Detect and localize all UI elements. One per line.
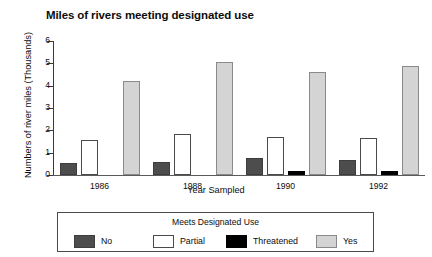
- bar: [216, 62, 233, 175]
- bar: [267, 137, 284, 175]
- y-axis-tick-label: 0: [34, 169, 50, 180]
- bar: [153, 162, 170, 175]
- plot-area: 0123456 1986198819901992: [53, 41, 425, 175]
- bar-chart-figure: Miles of rivers meeting designated use N…: [0, 0, 432, 257]
- legend-swatch-icon: [74, 235, 95, 248]
- y-axis-title: Numbers of river miles (Thousands): [23, 15, 33, 195]
- chart-title: Miles of rivers meeting designated use: [46, 9, 254, 21]
- bar: [123, 81, 140, 175]
- x-axis-line: [53, 175, 425, 176]
- bar: [246, 158, 263, 175]
- bar-group: [146, 41, 239, 175]
- legend-item-yes[interactable]: Yes: [316, 233, 357, 249]
- bar: [288, 171, 305, 175]
- legend-swatch-icon: [153, 235, 174, 248]
- y-axis-tick-label: 5: [34, 57, 50, 68]
- bar-group: [239, 41, 332, 175]
- bar: [309, 72, 326, 175]
- bar: [81, 140, 98, 175]
- bar: [360, 138, 377, 175]
- bar: [60, 163, 77, 175]
- legend-item-no[interactable]: No: [74, 233, 112, 249]
- y-axis-tick-label: 2: [34, 124, 50, 135]
- legend-box: Meets Designated Use NoPartialThreatened…: [57, 212, 374, 252]
- y-axis-tick-label: 1: [34, 147, 50, 158]
- legend-swatch-icon: [226, 235, 247, 248]
- y-axis-tick-label: 4: [34, 80, 50, 91]
- legend-item-label: Partial: [180, 236, 205, 246]
- bar-group: [53, 41, 146, 175]
- bar-group: [332, 41, 425, 175]
- bar: [174, 134, 191, 175]
- legend-item-label: Threatened: [253, 236, 298, 246]
- y-axis-tick-label: 3: [34, 102, 50, 113]
- legend-item-label: Yes: [343, 236, 357, 246]
- legend-item-threatened[interactable]: Threatened: [226, 233, 298, 249]
- legend-swatch-icon: [316, 235, 337, 248]
- bar: [381, 171, 398, 175]
- legend-item-partial[interactable]: Partial: [153, 233, 205, 249]
- bar: [402, 66, 419, 175]
- legend-title: Meets Designated Use: [58, 217, 373, 227]
- y-axis-tick-label: 6: [34, 35, 50, 46]
- legend-item-label: No: [101, 236, 112, 246]
- bar: [339, 160, 356, 175]
- legend-items: NoPartialThreatenedYes: [58, 233, 373, 251]
- x-axis-title: Year Sampled: [0, 185, 432, 195]
